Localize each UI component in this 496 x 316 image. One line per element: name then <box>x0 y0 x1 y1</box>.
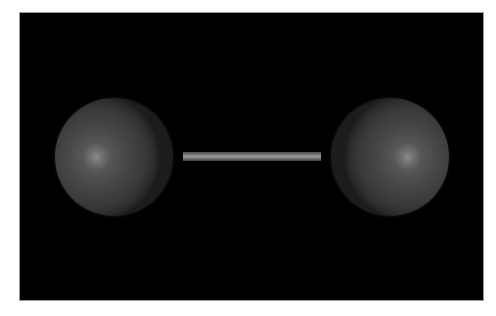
atom-sphere-left <box>55 98 173 216</box>
molecule-viewport[interactable] <box>19 12 484 301</box>
bond-cylinder <box>183 152 321 161</box>
atom-sphere-right <box>331 98 449 216</box>
